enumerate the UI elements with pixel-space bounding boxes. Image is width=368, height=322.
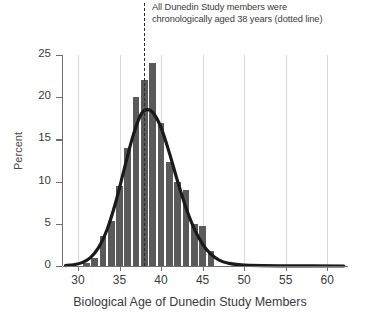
chart-annotation: All Dunedin Study members were chronolog…	[152, 2, 366, 25]
reference-line-age-38	[144, 3, 145, 266]
density-curve-path	[65, 110, 343, 266]
y-tick-label: 0	[11, 258, 51, 270]
y-tick-mark	[56, 97, 62, 98]
x-tick-label: 45	[188, 273, 218, 287]
y-tick-mark	[56, 224, 62, 225]
y-tick-mark	[56, 139, 62, 140]
y-tick-label: 20	[11, 89, 51, 101]
y-tick-mark	[56, 182, 62, 183]
y-tick-mark	[56, 55, 62, 56]
x-tick-mark	[203, 266, 204, 271]
x-tick-label: 35	[105, 273, 135, 287]
plot-area	[63, 55, 348, 266]
x-tick-label: 60	[312, 273, 342, 287]
x-tick-mark	[327, 266, 328, 271]
x-tick-mark	[120, 266, 121, 271]
x-tick-label: 30	[63, 273, 93, 287]
x-tick-mark	[161, 266, 162, 271]
x-tick-mark	[286, 266, 287, 271]
x-tick-label: 55	[271, 273, 301, 287]
y-tick-mark	[56, 266, 62, 267]
density-curve	[63, 55, 348, 266]
histogram-figure: All Dunedin Study members were chronolog…	[0, 0, 368, 322]
x-tick-label: 40	[146, 273, 176, 287]
x-tick-mark	[244, 266, 245, 271]
x-axis-title: Biological Age of Dunedin Study Members	[20, 295, 360, 309]
y-axis-title: Percent	[12, 111, 24, 191]
x-tick-label: 50	[229, 273, 259, 287]
x-tick-mark	[78, 266, 79, 271]
y-tick-label: 25	[11, 47, 51, 59]
x-axis-line	[63, 266, 348, 267]
y-axis-line	[62, 55, 63, 266]
annotation-line-1: All Dunedin Study members were	[152, 2, 366, 14]
y-tick-label: 5	[11, 216, 51, 228]
annotation-line-2: chronologically aged 38 years (dotted li…	[152, 14, 366, 26]
